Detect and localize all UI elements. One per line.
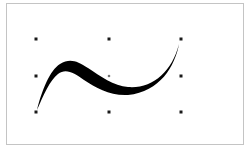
resize-handle-middle-left[interactable] <box>35 75 38 78</box>
resize-handle-bottom-left[interactable] <box>35 111 38 114</box>
canvas-stage[interactable] <box>0 0 249 151</box>
resize-handle-bottom-center[interactable] <box>108 111 111 114</box>
resize-handle-top-left[interactable] <box>35 38 38 41</box>
brush-stroke-shape[interactable] <box>37 44 179 110</box>
rotation-center-handle[interactable] <box>108 75 111 78</box>
resize-handle-top-center[interactable] <box>108 38 111 41</box>
resize-handle-middle-right[interactable] <box>180 75 183 78</box>
resize-handle-bottom-right[interactable] <box>180 111 183 114</box>
resize-handle-top-right[interactable] <box>180 38 183 41</box>
